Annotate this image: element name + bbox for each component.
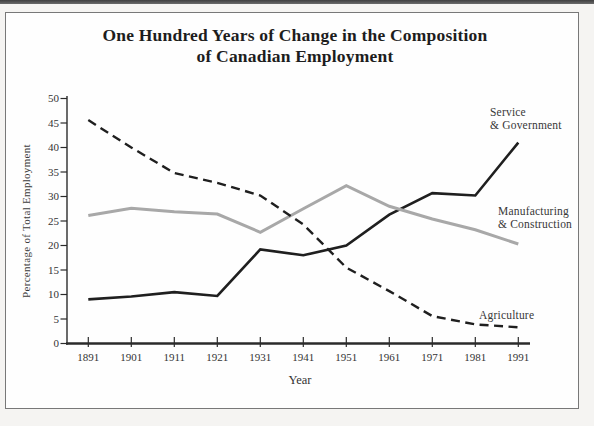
chart-title-line1: One Hundred Years of Change in the Compo…: [6, 25, 584, 46]
chart-title-line2: of Canadian Employment: [6, 46, 584, 67]
figure-frame: [5, 12, 579, 409]
series-label-line: Agriculture: [479, 309, 534, 322]
series-label-line: Manufacturing: [498, 205, 572, 218]
series-label-service-government: Service & Government: [490, 106, 562, 132]
page-top-edge: [0, 0, 594, 4]
y-axis-title: Percentage of Total Employment: [20, 144, 32, 298]
x-axis-title: Year: [288, 373, 311, 388]
series-label-manufacturing-construction: Manufacturing & Construction: [498, 205, 572, 231]
series-label-line: Service: [490, 106, 562, 119]
series-label-line: & Construction: [498, 218, 572, 231]
series-label-line: & Government: [490, 119, 562, 132]
chart-title: One Hundred Years of Change in the Compo…: [6, 25, 584, 67]
series-label-agriculture: Agriculture: [479, 309, 534, 322]
